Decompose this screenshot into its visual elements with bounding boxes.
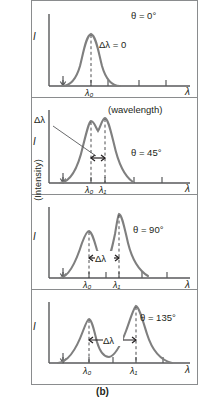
panel-0-intensity-label: I [33,31,36,42]
panel-1-xticks [63,177,162,183]
panel-1-tick-label-lambda1: λ₁ [98,185,106,195]
panel-1-delta-arrow [91,155,105,161]
panel-2-delta-label: Δλ [95,253,106,264]
panel-3-intensity-label: I [33,321,36,332]
panel-2-tick-label-lambda0: λ₀ [82,280,91,290]
panel-2-tick-label-lambda1: λ₁ [112,280,120,290]
panel-1-wavelength-label: λ [184,183,190,194]
panel-0-delta-label: Δλ = 0 [99,39,126,50]
panel-0-angle-label: θ = 0° [131,10,156,21]
compton-spectra-figure: (Intensity) [0,0,205,411]
panels-svg: I λ λ₀ θ = 0° Δλ = 0 [0,0,205,386]
panel-2-xticks [63,272,167,278]
panel-3-tick-label-lambda1: λ₁ [129,366,137,376]
panel-theta-0: I λ λ₀ θ = 0° Δλ = 0 [33,10,190,98]
panel-0-tick-label-lambda0: λ₀ [84,88,93,98]
panel-3-tick-label-lambda0: λ₀ [82,366,91,376]
panel-3-wavelength-label: λ [184,364,190,375]
panel-theta-135: Δλ I λ λ₀ λ₁ θ = 135° [33,302,190,376]
panel-2-angle-label: θ = 90° [133,224,164,235]
wavelength-word-label: (wavelength) [108,104,162,115]
panel-3-delta-label: Δλ [103,335,114,346]
panel-frames [32,1,198,385]
panel-1-tick-label-lambda0: λ₀ [84,185,93,195]
panel-2-wavelength-label: λ [184,279,190,290]
panel-3-angle-label: θ = 135° [140,312,176,323]
panel-3-xticks [63,357,163,363]
panel-theta-45: I λ λ₀ λ₁ Δλ θ = 45° (wavelength) [33,104,190,195]
panel-0-wavelength-label: λ [184,86,190,97]
panel-0-start-arrow [60,76,65,86]
figure-caption: (b) [0,386,205,397]
y-axis-outer-label: (Intensity) [33,120,43,240]
panel-1-curve [60,118,133,183]
panel-1-angle-label: θ = 45° [131,147,162,158]
panel-1-leader-line [53,126,96,156]
panel-theta-90: Δλ I λ λ₀ λ₁ θ = 90° [33,207,190,290]
